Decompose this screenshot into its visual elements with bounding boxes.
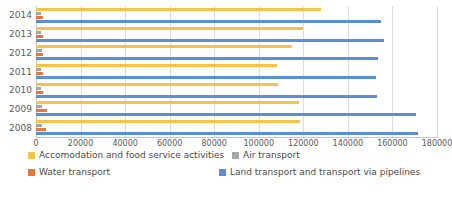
plot-area bbox=[36, 6, 437, 137]
bar-air bbox=[36, 68, 41, 71]
y-axis-category-labels: 2014201320122011201020092008 bbox=[0, 6, 34, 137]
y-tick-label-2012: 2012 bbox=[9, 48, 32, 58]
bar-accommodation bbox=[36, 8, 321, 11]
x-tick-label: 40000 bbox=[112, 138, 137, 149]
bar-land bbox=[36, 113, 416, 116]
legend-label-accommodation: Accomodation and food service activities bbox=[39, 150, 224, 160]
bar-land bbox=[36, 95, 377, 98]
bar-group bbox=[36, 6, 437, 25]
legend-swatch-icon-water-transport bbox=[28, 169, 35, 176]
bar-land bbox=[36, 76, 376, 79]
legend-item-water-transport[interactable]: Water transport bbox=[28, 167, 110, 177]
x-tick-label: 100000 bbox=[243, 138, 274, 149]
legend-swatch-icon-air-transport bbox=[232, 152, 239, 159]
bar-water bbox=[36, 53, 43, 56]
bar-group bbox=[36, 25, 437, 44]
bar-land bbox=[36, 57, 378, 60]
legend-label-air-transport: Air transport bbox=[243, 150, 300, 160]
gridline bbox=[437, 6, 438, 137]
bar-water bbox=[36, 72, 43, 75]
y-tick-label-2014: 2014 bbox=[9, 10, 32, 20]
bar-accommodation bbox=[36, 120, 300, 123]
bar-group bbox=[36, 62, 437, 81]
bar-group bbox=[36, 100, 437, 119]
bar-water bbox=[36, 109, 47, 112]
x-axis-tick-labels: 0200004000060000800001000001200001400001… bbox=[0, 138, 449, 150]
bar-air bbox=[36, 105, 42, 108]
bar-group bbox=[36, 43, 437, 62]
bar-air bbox=[36, 12, 41, 15]
bar-accommodation bbox=[36, 27, 303, 30]
bar-air bbox=[36, 124, 42, 127]
x-tick-label: 180000 bbox=[422, 138, 452, 149]
x-tick-label: 20000 bbox=[68, 138, 93, 149]
bar-land bbox=[36, 132, 418, 135]
legend-label-land-transport: Land transport and transport via pipelin… bbox=[230, 167, 420, 177]
bar-land bbox=[36, 39, 384, 42]
legend-item-land-transport[interactable]: Land transport and transport via pipelin… bbox=[219, 167, 420, 177]
x-tick-label: 80000 bbox=[201, 138, 226, 149]
bar-accommodation bbox=[36, 101, 299, 104]
bar-group bbox=[36, 118, 437, 137]
bar-accommodation bbox=[36, 83, 278, 86]
x-tick-label: 60000 bbox=[157, 138, 182, 149]
bar-air bbox=[36, 31, 41, 34]
bar-water bbox=[36, 128, 46, 131]
x-tick-label: 140000 bbox=[333, 138, 364, 149]
legend-swatch-icon-accommodation bbox=[28, 152, 35, 159]
bar-water bbox=[36, 35, 43, 38]
bar-accommodation bbox=[36, 45, 292, 48]
y-tick-label-2010: 2010 bbox=[9, 85, 32, 95]
y-tick-label-2009: 2009 bbox=[9, 104, 32, 114]
bar-air bbox=[36, 87, 41, 90]
bar-air bbox=[36, 49, 42, 52]
legend-label-water-transport: Water transport bbox=[39, 167, 110, 177]
bar-water bbox=[36, 91, 43, 94]
x-tick-label: 160000 bbox=[377, 138, 408, 149]
y-tick-label-2013: 2013 bbox=[9, 29, 32, 39]
legend-item-air-transport[interactable]: Air transport bbox=[232, 150, 300, 160]
bar-land bbox=[36, 20, 381, 23]
bar-accommodation bbox=[36, 64, 277, 67]
legend-item-accommodation[interactable]: Accomodation and food service activities bbox=[28, 150, 224, 160]
bar-groups bbox=[36, 6, 437, 137]
x-tick-label: 120000 bbox=[288, 138, 319, 149]
y-tick-label-2011: 2011 bbox=[9, 67, 32, 77]
legend-swatch-icon-land-transport bbox=[219, 169, 226, 176]
chart-legend: Accomodation and food service activities… bbox=[0, 150, 449, 196]
bar-water bbox=[36, 16, 43, 19]
bar-group bbox=[36, 81, 437, 100]
y-tick-label-2008: 2008 bbox=[9, 123, 32, 133]
x-tick-label: 0 bbox=[33, 138, 38, 149]
